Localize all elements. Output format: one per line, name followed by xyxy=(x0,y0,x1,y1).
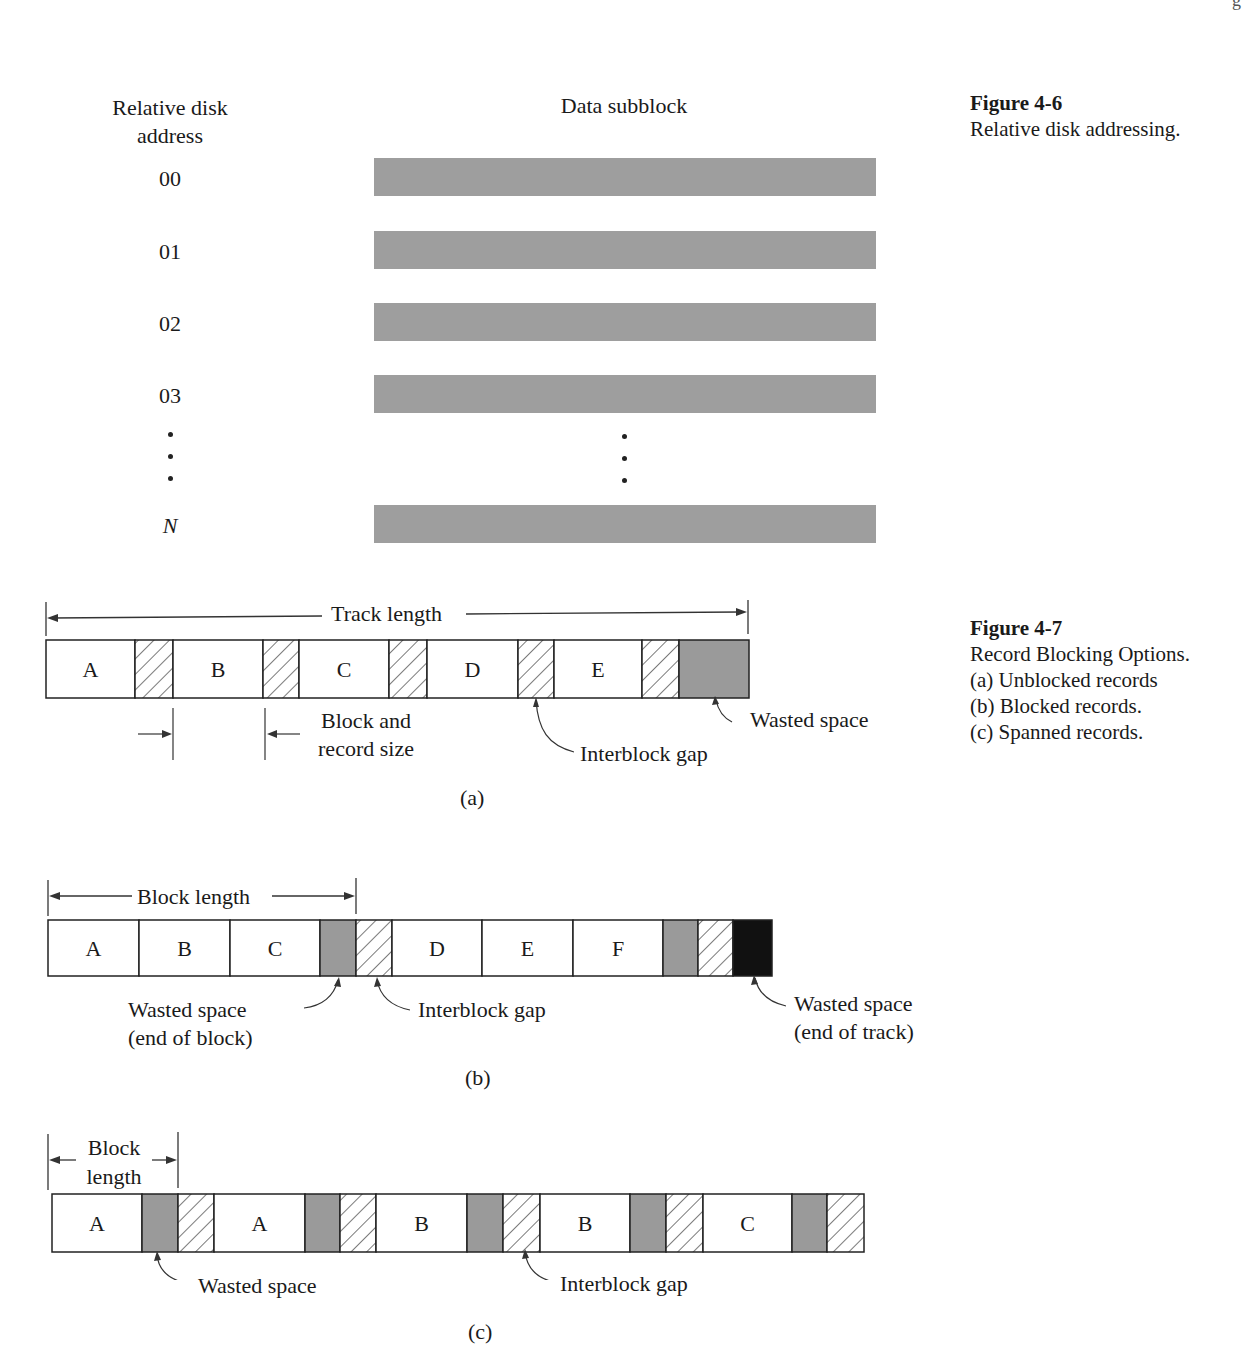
record-label: E xyxy=(521,936,534,961)
size-label-line1: Block and xyxy=(296,707,436,735)
label-line2: length xyxy=(66,1162,162,1191)
record-label: C xyxy=(740,1211,755,1236)
interblock-gap xyxy=(642,640,679,698)
caption-line: Record Blocking Options. xyxy=(970,641,1190,667)
panel-c-label: (c) xyxy=(468,1318,492,1346)
label-line2: (end of block) xyxy=(128,1024,253,1052)
interblock-gap xyxy=(263,640,299,698)
waste-leader xyxy=(157,1254,190,1280)
arrow-left-icon xyxy=(267,730,277,738)
record-label: A xyxy=(86,936,102,961)
record-label: A xyxy=(252,1211,268,1236)
record-label: B xyxy=(211,657,226,682)
page-corner-mark: g xyxy=(1232,0,1241,11)
caption-text: Relative disk addressing. xyxy=(970,116,1181,142)
gap-leader-line xyxy=(536,700,574,752)
record-label: B xyxy=(414,1211,429,1236)
panel-a-graphics: ABCDE xyxy=(0,0,960,800)
arrow-left-icon xyxy=(49,1156,60,1164)
record-label: D xyxy=(465,657,481,682)
figure-4-6-caption: Figure 4-6 Relative disk addressing. xyxy=(970,90,1181,142)
arrow-right-icon xyxy=(736,608,747,616)
gap-leader xyxy=(525,1252,554,1280)
arrow-right-icon xyxy=(166,1156,177,1164)
block-length-label: Block length xyxy=(134,883,253,911)
wasted-space-end-of-block-label: Wasted space (end of block) xyxy=(128,996,253,1052)
waste-block-leader xyxy=(304,980,338,1008)
label-line1: Wasted space xyxy=(128,996,253,1024)
figure-4-7-caption: Figure 4-7 Record Blocking Options. (a) … xyxy=(970,615,1190,745)
gap-leader xyxy=(377,980,410,1010)
wasted-space-block xyxy=(320,920,356,976)
interblock-gap xyxy=(666,1194,703,1252)
arrow-left-icon xyxy=(49,892,60,900)
panel-b-label: (b) xyxy=(465,1064,491,1092)
interblock-gap xyxy=(698,920,733,976)
block-length-label: Block length xyxy=(66,1133,162,1191)
label-line1: Block xyxy=(66,1133,162,1162)
arrow-right-icon xyxy=(162,730,172,738)
record-label: E xyxy=(591,657,604,682)
interblock-gap xyxy=(827,1194,864,1252)
caption-line: (a) Unblocked records xyxy=(970,667,1190,693)
wasted-space-block xyxy=(663,920,698,976)
wasted-space-label: Wasted space xyxy=(198,1272,317,1300)
interblock-gap xyxy=(135,640,173,698)
wasted-space-block xyxy=(142,1194,178,1252)
interblock-gap xyxy=(340,1194,376,1252)
record-label: C xyxy=(337,657,352,682)
record-label: A xyxy=(83,657,99,682)
interblock-gap xyxy=(178,1194,214,1252)
block-record-size-label: Block and record size xyxy=(296,707,436,763)
size-label-line2: record size xyxy=(296,735,436,763)
interblock-gap xyxy=(356,920,392,976)
arrow-right-icon xyxy=(344,892,355,900)
end-of-track-waste xyxy=(733,920,772,976)
waste-track-leader xyxy=(755,978,786,1006)
record-label: F xyxy=(612,936,624,961)
interblock-gap-label: Interblock gap xyxy=(418,996,546,1024)
wasted-space-block xyxy=(630,1194,666,1252)
caption-line: (b) Blocked records. xyxy=(970,693,1190,719)
arrow-up-icon xyxy=(334,977,341,987)
wasted-space-block xyxy=(305,1194,340,1252)
record-label: D xyxy=(429,936,445,961)
caption-line: (c) Spanned records. xyxy=(970,719,1190,745)
caption-title: Figure 4-6 xyxy=(970,90,1181,116)
label-line2: (end of track) xyxy=(794,1018,914,1046)
wasted-space-block xyxy=(792,1194,827,1252)
wasted-space-block xyxy=(467,1194,503,1252)
record-label: C xyxy=(268,936,283,961)
track-length-label: Track length xyxy=(328,600,445,628)
panel-a-label: (a) xyxy=(460,784,484,812)
record-label: B xyxy=(578,1211,593,1236)
arrow-left-icon xyxy=(47,614,58,622)
record-label: A xyxy=(89,1211,105,1236)
label-line1: Wasted space xyxy=(794,990,914,1018)
interblock-gap-label: Interblock gap xyxy=(580,740,708,768)
wasted-space-end-of-track-label: Wasted space (end of track) xyxy=(794,990,914,1046)
record-label: B xyxy=(177,936,192,961)
interblock-gap-label: Interblock gap xyxy=(560,1270,688,1298)
wasted-space-label: Wasted space xyxy=(750,706,869,734)
caption-title: Figure 4-7 xyxy=(970,615,1190,641)
wasted-space-block xyxy=(679,640,749,698)
interblock-gap xyxy=(503,1194,540,1252)
interblock-gap xyxy=(389,640,427,698)
interblock-gap xyxy=(518,640,554,698)
arrow-up-icon xyxy=(374,977,381,987)
